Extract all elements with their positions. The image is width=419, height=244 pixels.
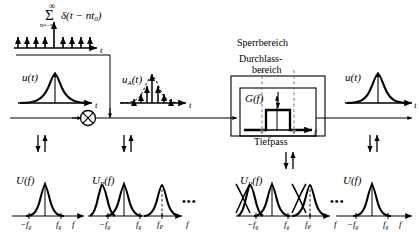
- spectrum-U-output-label: U(f): [343, 175, 361, 186]
- spectrum-UP-aliased-axis-label: f: [334, 220, 337, 229]
- spectrum-UP-aliased-tick-pos: fg: [284, 220, 289, 230]
- sum-limit-bottom: n=−∞: [40, 22, 54, 28]
- up-label-main: U: [92, 174, 100, 186]
- spectrum-U-output-plot: [336, 182, 412, 219]
- spectrum-UP-aliased-tick-fp: fP: [305, 220, 311, 230]
- transfer-function-label: G(f): [245, 93, 263, 104]
- correspondence-arrow-2: [124, 135, 131, 152]
- uo-tick-neg-sub: g: [356, 224, 359, 230]
- up-tick-fp-sub: P: [160, 224, 163, 230]
- spectrum-UP-aliased-tick-neg: −fg: [247, 220, 258, 230]
- spectrum-UP-sampled-tick-fp: fP: [157, 220, 163, 230]
- spectrum-UP-aliased-label: UP(f): [240, 175, 263, 188]
- spectrum-U-input-axis-label: f: [72, 220, 75, 229]
- fourier-correspondence-arrows: [38, 135, 377, 169]
- spectrum-UP-sampled-ellipsis: •••: [182, 196, 197, 207]
- spectrum-UP-sampled-axis-label: f: [186, 220, 189, 229]
- sampled-time-axis-label: t: [189, 101, 192, 110]
- correspondence-arrow-4: [370, 135, 377, 152]
- output-signal-label: u(t): [345, 72, 361, 83]
- input-time-axis-label: t: [95, 101, 98, 110]
- spectrum-U-output-tick-pos: fg: [383, 220, 388, 230]
- spectrum-U-input-tick-pos: fg: [56, 220, 61, 230]
- dirac-body-end: ): [98, 9, 102, 21]
- sampled-signal-label: uA(t): [122, 74, 142, 87]
- tick-neg-text: −f: [20, 219, 29, 229]
- filter-block-caption: Tiefpass: [254, 137, 288, 147]
- diagram-canvas: ∞ Σ n=−∞ δ(t − nt0) t u(t) t uA(t) t Spe…: [0, 0, 419, 244]
- upa-tick-neg-text: −f: [247, 219, 256, 229]
- diagram-vector-layer: [0, 0, 419, 244]
- up-tick-neg-sub: g: [108, 224, 111, 230]
- passband-label-line1: Durchlass-: [239, 54, 282, 64]
- spectrum-U-input-plot: [12, 182, 84, 219]
- upa-label-main: U: [240, 174, 248, 186]
- dirac-body-text: δ(t − nt: [61, 9, 94, 21]
- spectrum-UP-aliased-ellipsis: •••: [330, 196, 345, 207]
- filter-freq-axis-label: f: [314, 128, 317, 137]
- spectrum-U-output-tick-neg: −fg: [347, 220, 358, 230]
- spectrum-UP-sampled-tick-pos: fg: [136, 220, 141, 230]
- main-signal-path: [10, 111, 412, 126]
- dirac-comb-plot: [14, 22, 97, 48]
- upa-tick-neg-sub: g: [256, 224, 259, 230]
- upa-label-tail: (f): [252, 174, 262, 186]
- spectrum-UP-sampled-tick-neg: −fg: [99, 220, 110, 230]
- sampled-label-tail: (t): [132, 73, 142, 85]
- tick-pos-sub: g: [59, 224, 62, 230]
- correspondence-arrow-3: [286, 152, 293, 169]
- dirac-formula-body: δ(t − nt0): [61, 10, 101, 23]
- upa-tick-pos-sub: g: [287, 224, 290, 230]
- stopband-label: Sperrbereich: [237, 38, 288, 48]
- spectrum-UP-sampled-label: UP(f): [92, 175, 115, 188]
- up-tick-neg-text: −f: [99, 219, 108, 229]
- uo-tick-neg-text: −f: [347, 219, 356, 229]
- input-signal-label: u(t): [22, 72, 38, 83]
- up-label-tail: (f): [104, 174, 114, 186]
- correspondence-arrow-1: [38, 135, 45, 152]
- dirac-axis-label: t: [100, 46, 103, 55]
- spectrum-U-input-tick-neg: −fg: [20, 220, 31, 230]
- output-time-axis-label: t: [414, 101, 417, 110]
- uo-tick-pos-sub: g: [386, 224, 389, 230]
- passband-label-line2: bereich: [252, 65, 281, 75]
- up-tick-pos-sub: g: [139, 224, 142, 230]
- spectrum-U-output-axis-label: f: [399, 220, 402, 229]
- upa-tick-fp-sub: P: [308, 224, 311, 230]
- tick-neg-sub: g: [29, 224, 32, 230]
- spectrum-U-input-label: U(f): [16, 175, 34, 186]
- sigma-symbol: Σ: [45, 8, 54, 23]
